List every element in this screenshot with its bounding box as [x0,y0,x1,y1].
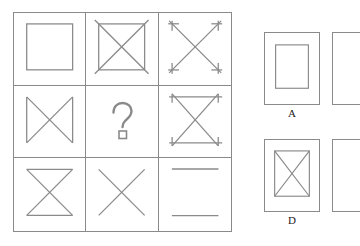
matrix-cell-r2c1[interactable] [14,86,86,159]
option-d[interactable]: D [264,139,320,212]
matrix-cell-r1c3[interactable] [159,13,231,86]
option-b-box[interactable] [332,32,360,105]
option-e[interactable] [332,139,360,212]
figure-square-with-x-and-ticks [86,13,157,85]
figure-x-with-corner-ticks [159,13,231,85]
figure-square-in-box [265,33,319,104]
figure-square [14,13,85,85]
matrix-cell-r3c1[interactable] [14,158,86,231]
option-e-box[interactable] [332,139,360,212]
figure-square-with-x-in-box [265,140,319,211]
matrix-cell-r2c2[interactable] [86,86,158,159]
figure-x [86,158,157,231]
figure-hourglass [14,158,85,231]
option-a-box[interactable] [264,32,320,105]
figure-two-horizontal-lines [159,158,231,231]
question-mark-marker [86,86,157,158]
figure-bowtie-vertical [14,86,85,158]
matrix-cell-r1c1[interactable] [14,13,86,86]
matrix-cell-r1c2[interactable] [86,13,158,86]
matrix-cell-r2c3[interactable] [159,86,231,159]
option-a[interactable]: A [264,32,320,105]
option-b[interactable] [332,32,360,105]
figure-hourglass-with-ticks [159,86,231,158]
matrix-cell-r3c2[interactable] [86,158,158,231]
option-d-box[interactable] [264,139,320,212]
question-mark-icon [107,100,137,142]
option-a-label: A [264,107,320,119]
matrix-cell-r3c3[interactable] [159,158,231,231]
option-d-label: D [264,214,320,226]
puzzle-matrix [13,12,232,232]
answer-options-panel: A D [264,32,360,246]
